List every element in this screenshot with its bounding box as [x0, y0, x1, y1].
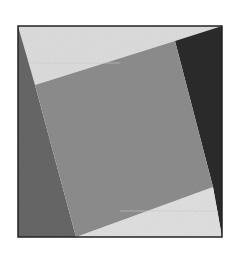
tilted-square-figure [0, 0, 240, 254]
